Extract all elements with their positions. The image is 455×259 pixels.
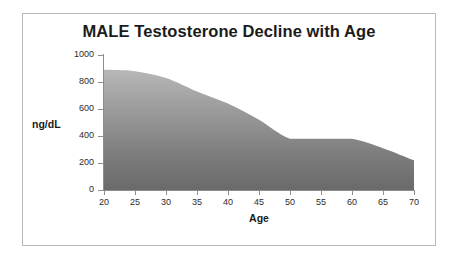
- x-tick-mark: [166, 190, 167, 195]
- x-tick-mark: [104, 190, 105, 195]
- x-tick-label: 60: [340, 197, 364, 207]
- x-tick-label: 65: [371, 197, 395, 207]
- x-tick-label: 45: [247, 197, 271, 207]
- x-tick-mark: [197, 190, 198, 195]
- x-tick-mark: [259, 190, 260, 195]
- x-tick-label: 70: [402, 197, 426, 207]
- x-tick-label: 55: [309, 197, 333, 207]
- x-tick-mark: [352, 190, 353, 195]
- x-tick-mark: [228, 190, 229, 195]
- x-tick-label: 30: [154, 197, 178, 207]
- x-tick-mark: [290, 190, 291, 195]
- x-tick-label: 50: [278, 197, 302, 207]
- x-axis-title: Age: [104, 212, 414, 224]
- chart-figure: MALE Testosterone Decline with Age 02004…: [0, 0, 455, 259]
- x-tick-mark: [383, 190, 384, 195]
- x-tick-mark: [321, 190, 322, 195]
- x-tick-mark: [414, 190, 415, 195]
- x-tick-label: 25: [123, 197, 147, 207]
- x-tick-label: 40: [216, 197, 240, 207]
- x-tick-label: 35: [185, 197, 209, 207]
- x-tick-label: 20: [92, 197, 116, 207]
- x-tick-mark: [135, 190, 136, 195]
